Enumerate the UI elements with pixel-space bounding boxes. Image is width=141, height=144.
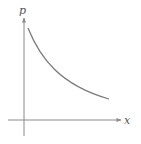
horizontal-axis-label: x [124, 114, 131, 127]
diagram-canvas: p x [0, 0, 141, 144]
vertical-axis-label: p [19, 4, 26, 17]
curve [28, 28, 109, 99]
